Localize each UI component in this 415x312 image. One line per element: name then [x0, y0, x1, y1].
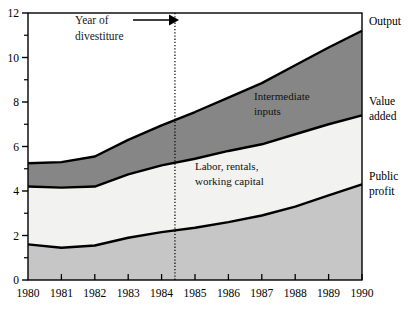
- x-tick-label: 1987: [250, 287, 273, 299]
- x-tick-label: 1984: [150, 287, 173, 299]
- x-tick-label: 1983: [117, 287, 140, 299]
- stacked-area-chart: 024681012 198019811982198319841985198619…: [0, 0, 415, 312]
- y-tick-label: 12: [8, 7, 20, 19]
- divestiture-text-line2: divestiture: [75, 30, 124, 42]
- x-axis-tick-labels: 1980198119821983198419851986198719881989…: [17, 287, 374, 299]
- right-label-public-profit-line1: Public: [369, 170, 398, 182]
- x-tick-label: 1982: [83, 287, 106, 299]
- x-tick-label: 1985: [184, 287, 207, 299]
- y-tick-label: 6: [13, 141, 19, 153]
- intermediate-inputs-label-line1: Intermediate: [254, 90, 310, 102]
- labor-label-line2: working capital: [195, 175, 264, 187]
- chart-container: 024681012 198019811982198319841985198619…: [0, 0, 415, 312]
- right-label-public-profit-line2: profit: [369, 185, 395, 198]
- labor-label-line1: Labor, rentals,: [195, 160, 259, 172]
- y-tick-label: 10: [8, 52, 20, 64]
- y-tick-label: 2: [13, 230, 19, 242]
- right-label-value-added-line1: Value: [369, 95, 395, 107]
- intermediate-inputs-label-line2: inputs: [254, 105, 281, 117]
- x-tick-label: 1980: [17, 287, 40, 299]
- y-tick-label: 4: [13, 185, 19, 197]
- x-tick-label: 1990: [351, 287, 374, 299]
- y-tick-label: 8: [13, 96, 19, 108]
- right-label-value-added-line2: added: [369, 110, 397, 122]
- y-tick-label: 0: [13, 274, 19, 286]
- x-tick-label: 1988: [284, 287, 307, 299]
- x-tick-label: 1989: [317, 287, 340, 299]
- x-tick-label: 1986: [217, 287, 240, 299]
- right-label-output: Output: [369, 15, 402, 28]
- x-tick-label: 1981: [50, 287, 73, 299]
- divestiture-text-line1: Year of: [75, 14, 109, 26]
